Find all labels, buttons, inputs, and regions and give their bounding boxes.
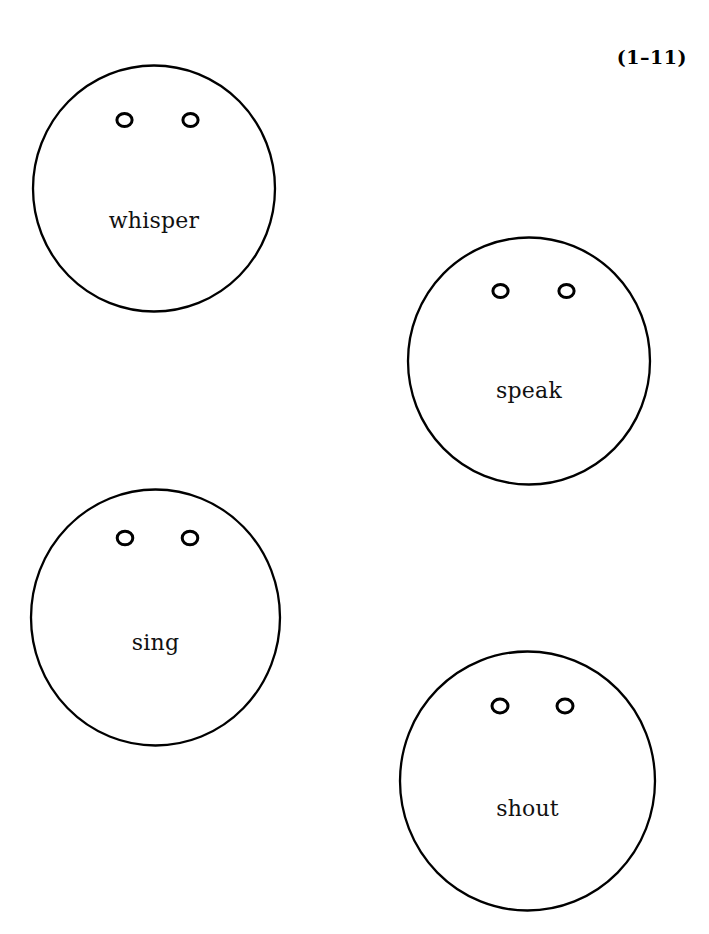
worksheet-page: (1–11) whisper speak sing xyxy=(0,0,709,934)
left-eye-icon xyxy=(117,531,133,545)
face-outline-shout xyxy=(398,650,657,912)
face-circle xyxy=(400,652,655,911)
face-outline-whisper xyxy=(31,64,277,313)
face-label-shout: shout xyxy=(398,796,657,821)
exercise-number-label: (1–11) xyxy=(617,46,687,68)
right-eye-icon xyxy=(557,699,573,713)
face-circle xyxy=(408,238,650,485)
right-eye-icon xyxy=(183,113,198,126)
right-eye-icon xyxy=(182,531,198,545)
face-outline-speak xyxy=(406,236,652,486)
left-eye-icon xyxy=(493,284,508,297)
face-label-speak: speak xyxy=(406,378,652,403)
face-speak[interactable]: speak xyxy=(406,236,652,486)
left-eye-icon xyxy=(492,699,508,713)
face-label-whisper: whisper xyxy=(31,208,277,233)
face-circle xyxy=(33,66,275,312)
face-sing[interactable]: sing xyxy=(29,488,282,747)
face-circle xyxy=(31,490,280,746)
face-label-sing: sing xyxy=(29,630,282,655)
face-whisper[interactable]: whisper xyxy=(31,64,277,313)
right-eye-icon xyxy=(559,284,574,297)
face-shout[interactable]: shout xyxy=(398,650,657,912)
left-eye-icon xyxy=(117,113,132,126)
face-outline-sing xyxy=(29,488,282,747)
